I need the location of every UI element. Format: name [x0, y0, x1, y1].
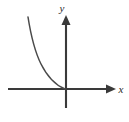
exponential-graph-figure: y x: [0, 0, 129, 122]
y-axis-label: y: [59, 2, 65, 14]
x-axis-arrowhead-icon: [106, 85, 116, 94]
y-axis-arrowhead-icon: [62, 15, 71, 25]
x-axis-label: x: [118, 83, 124, 95]
graph-canvas: y x: [0, 0, 129, 122]
exponential-curve: [28, 17, 65, 89]
